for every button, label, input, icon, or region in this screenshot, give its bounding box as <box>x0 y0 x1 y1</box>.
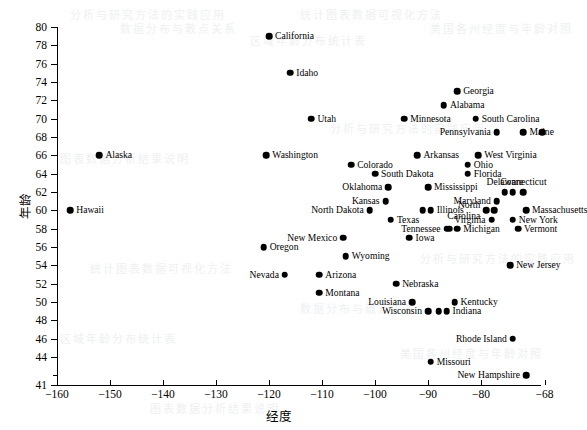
data-point[interactable] <box>510 216 517 223</box>
y-tick-label: 52 <box>23 279 47 289</box>
data-point[interactable] <box>435 308 442 315</box>
data-point-label: Oklahoma <box>342 182 382 193</box>
data-point[interactable] <box>308 115 315 122</box>
x-tick <box>216 380 217 385</box>
data-point-label: Connecticut <box>500 177 546 188</box>
x-tick-label: −80 <box>458 388 504 400</box>
x-tick-label: −100 <box>352 388 398 400</box>
y-tick <box>51 265 57 266</box>
data-point[interactable] <box>388 216 395 223</box>
data-point[interactable] <box>419 207 426 214</box>
x-tick <box>375 380 376 385</box>
page-bleed-through: 美国各州经度与年龄对照 <box>400 345 543 361</box>
data-point[interactable] <box>507 262 514 269</box>
data-point-label: Nebraska <box>402 278 438 289</box>
y-tick-label: 72 <box>23 95 47 105</box>
data-point-label: Alabama <box>450 100 485 111</box>
data-point[interactable] <box>393 280 400 287</box>
data-point-label: Iowa <box>415 233 434 244</box>
data-point-label: Indiana <box>453 306 482 317</box>
data-point[interactable] <box>494 129 501 136</box>
data-point[interactable] <box>372 170 379 177</box>
y-tick-label: 46 <box>23 334 47 344</box>
data-point-label: Nevada <box>250 269 279 280</box>
data-point[interactable] <box>414 152 421 159</box>
data-point[interactable] <box>316 290 323 297</box>
data-point[interactable] <box>401 115 408 122</box>
y-tick-label: 74 <box>23 77 47 87</box>
data-point[interactable] <box>494 198 501 205</box>
data-point[interactable] <box>472 115 479 122</box>
data-point[interactable] <box>382 198 389 205</box>
data-point[interactable] <box>510 189 517 196</box>
y-tick <box>51 302 57 303</box>
data-point-label: California <box>275 31 314 42</box>
data-point[interactable] <box>454 225 461 232</box>
y-tick <box>51 320 57 321</box>
y-tick-label: 76 <box>23 59 47 69</box>
data-point[interactable] <box>502 189 509 196</box>
data-point[interactable] <box>67 207 74 214</box>
data-point[interactable] <box>282 271 289 278</box>
data-point[interactable] <box>263 152 270 159</box>
x-tick-label: −130 <box>193 388 239 400</box>
y-tick <box>51 174 57 175</box>
data-point[interactable] <box>385 184 392 191</box>
data-point[interactable] <box>520 189 527 196</box>
data-point[interactable] <box>427 207 434 214</box>
data-point[interactable] <box>443 308 450 315</box>
x-tick-label: −110 <box>299 388 345 400</box>
data-point[interactable] <box>425 308 432 315</box>
data-point[interactable] <box>464 170 471 177</box>
x-tick-label: −150 <box>87 388 133 400</box>
data-point[interactable] <box>520 129 527 136</box>
data-point[interactable] <box>266 33 273 40</box>
data-point[interactable] <box>343 253 350 260</box>
data-point-label: Idaho <box>296 68 318 79</box>
data-point[interactable] <box>523 372 530 379</box>
data-point[interactable] <box>348 161 355 168</box>
data-point[interactable] <box>515 225 522 232</box>
x-axis-line <box>57 385 541 386</box>
x-tick-label: −140 <box>140 388 186 400</box>
data-point[interactable] <box>491 207 498 214</box>
y-tick <box>51 192 57 193</box>
data-point-label: Montana <box>325 288 359 299</box>
data-point-label: South Carolina <box>482 113 540 124</box>
data-point[interactable] <box>464 161 471 168</box>
y-tick-label: 50 <box>23 297 47 307</box>
data-point[interactable] <box>425 184 432 191</box>
page-bleed-through: 区域年龄分布统计表 <box>60 330 177 346</box>
y-tick-label: 56 <box>23 242 47 252</box>
data-point-label: Utah <box>317 113 336 124</box>
data-point[interactable] <box>366 207 373 214</box>
data-point[interactable] <box>260 244 267 251</box>
data-point[interactable] <box>96 152 103 159</box>
data-point-label: Michigan <box>463 223 500 234</box>
x-tick <box>481 380 482 385</box>
data-point[interactable] <box>287 70 294 77</box>
data-point[interactable] <box>454 88 461 95</box>
x-tick <box>163 380 164 385</box>
y-tick-minor <box>53 375 57 376</box>
x-tick <box>57 380 58 385</box>
data-point[interactable] <box>510 335 517 342</box>
data-point[interactable] <box>441 102 448 109</box>
y-tick <box>51 100 57 101</box>
data-point[interactable] <box>316 271 323 278</box>
data-point[interactable] <box>340 235 347 242</box>
data-point[interactable] <box>427 358 434 365</box>
x-tick <box>428 380 429 385</box>
data-point[interactable] <box>446 225 453 232</box>
data-point-label: New Hampshire <box>457 370 520 381</box>
y-tick-label: 44 <box>23 352 47 362</box>
data-point[interactable] <box>539 129 546 136</box>
y-tick-label: 48 <box>23 315 47 325</box>
data-point-label: Vermont <box>524 223 557 234</box>
data-point-label: Georgia <box>463 86 494 97</box>
data-point[interactable] <box>406 235 413 242</box>
data-point-label: Pennsylvania <box>440 127 491 138</box>
x-tick <box>269 380 270 385</box>
data-point-label: Mississippi <box>434 182 478 193</box>
x-tick <box>110 380 111 385</box>
